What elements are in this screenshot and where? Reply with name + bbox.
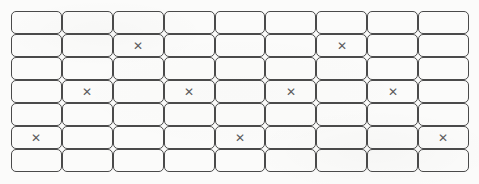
grid-cell-r5-c2[interactable] [62,103,113,126]
grid-cell-r3-c1[interactable] [11,57,62,80]
grid-cell-r4-c1[interactable] [11,80,62,103]
grid-cell-r5-c9[interactable] [418,103,469,126]
grid-cell-r1-c5[interactable] [215,11,266,34]
grid-cell-r2-c2[interactable] [62,34,113,57]
grid-cell-r2-c1[interactable] [11,34,62,57]
grid-cell-r1-c1[interactable] [11,11,62,34]
grid-cell-r1-c3[interactable] [113,11,164,34]
grid-cell-r2-c4[interactable] [164,34,215,57]
grid-cell-r7-c7[interactable] [316,149,367,172]
grid-cell-r6-c9[interactable]: ✕ [418,126,469,149]
grid-row [11,103,469,126]
cross-mark-icon: ✕ [82,85,92,97]
grid-cell-r1-c9[interactable] [418,11,469,34]
grid-cell-r3-c3[interactable] [113,57,164,80]
grid-row: ✕✕✕ [11,126,469,149]
grid-cell-r1-c2[interactable] [62,11,113,34]
cross-mark-icon: ✕ [133,39,143,51]
grid-cell-r5-c7[interactable] [316,103,367,126]
grid-cell-r4-c3[interactable] [113,80,164,103]
grid-cell-r7-c1[interactable] [11,149,62,172]
grid-cell-r6-c6[interactable] [265,126,316,149]
grid-row [11,57,469,80]
grid-cell-r6-c7[interactable] [316,126,367,149]
cross-mark-icon: ✕ [438,131,448,143]
grid-cell-r3-c9[interactable] [418,57,469,80]
grid-row [11,11,469,34]
grid-table: ✕✕✕✕✕✕✕✕✕ [11,11,469,172]
grid-cell-r4-c4[interactable]: ✕ [164,80,215,103]
grid-cell-r2-c3[interactable]: ✕ [113,34,164,57]
grid-cell-r7-c5[interactable] [215,149,266,172]
grid-cell-r2-c8[interactable] [367,34,418,57]
grid-cell-r6-c3[interactable] [113,126,164,149]
grid-cell-r3-c2[interactable] [62,57,113,80]
grid-cell-r1-c8[interactable] [367,11,418,34]
grid-cell-r7-c2[interactable] [62,149,113,172]
grid-cell-r7-c9[interactable] [418,149,469,172]
grid-cell-r5-c1[interactable] [11,103,62,126]
grid-cell-r4-c2[interactable]: ✕ [62,80,113,103]
grid-cell-r7-c8[interactable] [367,149,418,172]
grid-cell-r3-c5[interactable] [215,57,266,80]
grid-cell-r7-c6[interactable] [265,149,316,172]
grid-cell-r1-c4[interactable] [164,11,215,34]
cross-mark-icon: ✕ [388,85,398,97]
grid-cell-r3-c4[interactable] [164,57,215,80]
grid-cell-r6-c5[interactable]: ✕ [215,126,266,149]
grid-row [11,149,469,172]
grid-cell-r5-c8[interactable] [367,103,418,126]
grid-cell-r6-c4[interactable] [164,126,215,149]
grid-cell-r7-c4[interactable] [164,149,215,172]
grid-cell-r4-c9[interactable] [418,80,469,103]
scanned-grid-sheet: ✕✕✕✕✕✕✕✕✕ [0,0,479,184]
grid-cell-r2-c6[interactable] [265,34,316,57]
grid-cell-r5-c3[interactable] [113,103,164,126]
grid-cell-r5-c6[interactable] [265,103,316,126]
grid-cell-r4-c5[interactable] [215,80,266,103]
grid-cell-r4-c8[interactable]: ✕ [367,80,418,103]
grid-cell-r7-c3[interactable] [113,149,164,172]
grid-cell-r1-c7[interactable] [316,11,367,34]
cross-mark-icon: ✕ [337,39,347,51]
grid-cell-r6-c8[interactable] [367,126,418,149]
grid-cell-r6-c2[interactable] [62,126,113,149]
grid-cell-r1-c6[interactable] [265,11,316,34]
grid-row: ✕✕✕✕ [11,80,469,103]
grid-row: ✕✕ [11,34,469,57]
grid-cell-r5-c5[interactable] [215,103,266,126]
grid-cell-r3-c6[interactable] [265,57,316,80]
grid-cell-r4-c7[interactable] [316,80,367,103]
grid-cell-r3-c7[interactable] [316,57,367,80]
cross-mark-icon: ✕ [235,131,245,143]
cross-mark-icon: ✕ [31,131,41,143]
cross-mark-icon: ✕ [184,85,194,97]
grid-cell-r6-c1[interactable]: ✕ [11,126,62,149]
grid-cell-r2-c7[interactable]: ✕ [316,34,367,57]
grid-cell-r4-c6[interactable]: ✕ [265,80,316,103]
grid-cell-r2-c9[interactable] [418,34,469,57]
grid-cell-r5-c4[interactable] [164,103,215,126]
grid-cell-r2-c5[interactable] [215,34,266,57]
grid-cell-r3-c8[interactable] [367,57,418,80]
cross-mark-icon: ✕ [286,85,296,97]
